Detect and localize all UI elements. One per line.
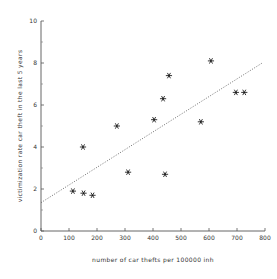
y-tick-label: 2 [33, 185, 37, 192]
data-point [208, 58, 214, 63]
data-point [80, 191, 86, 196]
x-axis-title: number of car thefts per 100000 inh [92, 256, 214, 264]
x-tick-label: 400 [147, 234, 159, 241]
data-point [233, 90, 239, 95]
x-tick-label: 200 [91, 234, 103, 241]
data-point [151, 117, 157, 122]
x-tick-label: 100 [63, 234, 75, 241]
data-point [166, 73, 172, 78]
x-tick-label: 300 [119, 234, 131, 241]
plot-canvas: 01002003004005006007008000246810number o… [0, 0, 277, 279]
data-point [162, 172, 168, 177]
trendline [41, 63, 262, 203]
data-point [70, 188, 76, 193]
data-point [198, 119, 204, 124]
data-point [114, 123, 120, 128]
data-point [89, 193, 95, 198]
y-tick-label: 4 [33, 143, 37, 150]
x-tick-label: 700 [231, 234, 243, 241]
y-tick-label: 6 [33, 101, 37, 108]
y-tick-label: 8 [33, 59, 37, 66]
x-tick-label: 600 [203, 234, 215, 241]
y-tick-label: 0 [33, 227, 37, 234]
data-point [125, 170, 131, 175]
data-point [241, 90, 247, 95]
x-tick-label: 800 [259, 234, 271, 241]
data-point [160, 96, 166, 101]
y-axis-title: victimization rate car theft in the last… [16, 50, 24, 203]
scatter-plot-figure: 01002003004005006007008000246810number o… [0, 0, 277, 279]
x-tick-label: 500 [175, 234, 187, 241]
y-tick-label: 10 [29, 17, 37, 24]
x-tick-label: 0 [39, 234, 43, 241]
data-point [80, 144, 86, 149]
